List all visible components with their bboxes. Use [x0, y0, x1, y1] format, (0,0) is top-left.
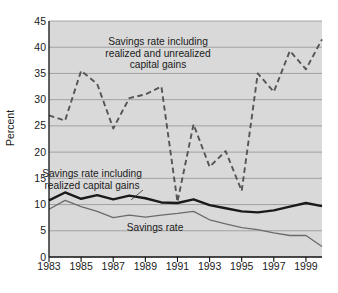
y-tick-label: 25 — [24, 120, 46, 130]
y-tick-label: 10 — [24, 199, 46, 209]
y-axis-label: Percent — [4, 96, 16, 160]
y-tick-label: 5 — [24, 225, 46, 235]
y-tick-label: 40 — [24, 42, 46, 52]
x-axis-ticks: 198319851987198919911993199519971999 — [0, 261, 338, 281]
annotation-savings-rate: Savings rate — [112, 222, 198, 234]
y-tick-label: 35 — [24, 68, 46, 78]
x-tick-label: 1999 — [286, 261, 326, 272]
y-tick-label: 45 — [24, 16, 46, 26]
y-tick-label: 20 — [24, 147, 46, 157]
y-axis-ticks: 051015202530354045 — [20, 0, 46, 293]
annotation-realized-gains: Savings rate including realized capital … — [21, 168, 163, 191]
annotation-unrealized-gains: Savings rate including realized and unre… — [92, 36, 224, 71]
chart-figure: 051015202530354045 198319851987198919911… — [0, 0, 338, 293]
y-tick-label: 30 — [24, 94, 46, 104]
